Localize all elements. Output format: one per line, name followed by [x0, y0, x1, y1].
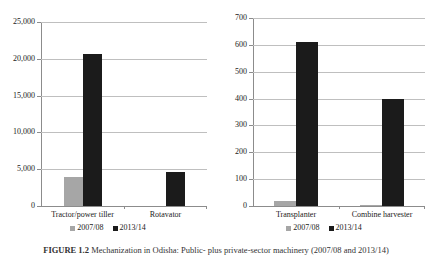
y-axis-label: 10,000: [13, 128, 35, 136]
legend-item: 2007/08: [286, 224, 319, 232]
legend-label: 2007/08: [77, 224, 103, 232]
y-axis-label: 0: [31, 202, 35, 210]
legend-swatch-icon: [286, 226, 291, 231]
y-axis-label: 25,000: [13, 18, 35, 26]
x-axis-category-label: Rotavator: [150, 211, 182, 219]
category-labels-left: Tractor/power tillerRotavator: [41, 206, 207, 224]
legend-item: 2007/08: [70, 224, 103, 232]
legend-label: 2007/08: [293, 224, 319, 232]
chart-panels: 05,00010,00015,00020,00025,000 Tractor/p…: [0, 0, 432, 243]
bar: [83, 54, 102, 206]
y-axis-label: 500: [235, 68, 247, 76]
plot-area-right: 0100200300400500600700 TransplanterCombi…: [253, 18, 425, 206]
x-axis-tick: [424, 206, 425, 209]
bars-left: [41, 22, 207, 206]
y-axis-label: 200: [235, 148, 247, 156]
legend-swatch-icon: [329, 226, 334, 231]
y-axis-label: 600: [235, 41, 247, 49]
y-axis-label: 20,000: [13, 55, 35, 63]
bar: [382, 99, 404, 206]
legend-item: 2013/14: [329, 224, 362, 232]
y-axis-label: 15,000: [13, 92, 35, 100]
x-axis-tick: [339, 206, 340, 209]
legend-swatch-icon: [70, 226, 75, 231]
x-axis-category-label: Combine harvester: [352, 211, 413, 219]
bar: [166, 172, 185, 206]
caption-body: Mechanization in Odisha: Public- plus pr…: [91, 245, 389, 255]
bar-group: [124, 22, 207, 206]
bar-group: [253, 18, 339, 206]
legend-item: 2013/14: [113, 224, 146, 232]
legend-swatch-icon: [113, 226, 118, 231]
bars-right: [253, 18, 425, 206]
figure-caption: FIGURE 1.2 Mechanization in Odisha: Publ…: [0, 245, 432, 255]
y-axis-label: 700: [235, 14, 247, 22]
x-axis-tick: [124, 206, 125, 209]
y-axis-label: 400: [235, 95, 247, 103]
y-axis-label: 0: [243, 202, 247, 210]
chart-panel-right: 0100200300400500600700 TransplanterCombi…: [216, 0, 432, 243]
legend-label: 2013/14: [336, 224, 362, 232]
plot-area-left: 05,00010,00015,00020,00025,000 Tractor/p…: [41, 22, 207, 206]
y-axis-label: 300: [235, 121, 247, 129]
bar: [296, 42, 318, 206]
figure-container: 05,00010,00015,00020,00025,000 Tractor/p…: [0, 0, 432, 255]
x-axis-category-label: Tractor/power tiller: [51, 211, 114, 219]
legend-label: 2013/14: [120, 224, 146, 232]
bar-group: [41, 22, 124, 206]
bar-group: [339, 18, 425, 206]
caption-number: FIGURE 1.2: [43, 245, 89, 255]
legend-left: 2007/082013/14: [0, 224, 216, 232]
y-axis-label: 100: [235, 175, 247, 183]
x-axis-tick: [206, 206, 207, 209]
x-axis-category-label: Transplanter: [276, 211, 316, 219]
bar: [64, 177, 83, 206]
legend-right: 2007/082013/14: [216, 224, 432, 232]
y-axis-label: 5,000: [17, 165, 35, 173]
category-labels-right: TransplanterCombine harvester: [253, 206, 425, 224]
chart-panel-left: 05,00010,00015,00020,00025,000 Tractor/p…: [0, 0, 216, 243]
